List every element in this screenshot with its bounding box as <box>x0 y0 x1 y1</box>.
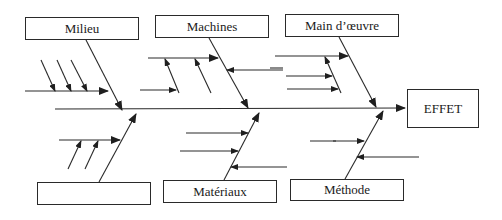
category-box-milieu: Milieu <box>25 17 139 40</box>
bone-blank <box>99 114 136 182</box>
category-label: Main d’œuvre <box>305 18 379 34</box>
effect-label: EFFET <box>424 101 462 117</box>
category-label: Milieu <box>65 21 100 37</box>
bone-main-oeuvre <box>339 37 376 107</box>
bone-machines <box>209 38 248 108</box>
category-box-blank <box>37 182 151 205</box>
category-label: Matériaux <box>193 184 246 200</box>
bone-materiaux <box>224 113 259 180</box>
spine-arrow <box>55 108 405 109</box>
category-box-materiaux: Matériaux <box>163 180 277 203</box>
bone-milieu <box>86 40 122 110</box>
category-label: Machines <box>187 19 238 35</box>
bone-methode <box>345 111 383 179</box>
category-box-main-oeuvre: Main d’œuvre <box>285 14 399 37</box>
category-label: Méthode <box>324 182 370 198</box>
effect-box: EFFET <box>407 89 479 128</box>
category-box-methode: Méthode <box>290 179 404 201</box>
category-box-machines: Machines <box>155 15 269 38</box>
